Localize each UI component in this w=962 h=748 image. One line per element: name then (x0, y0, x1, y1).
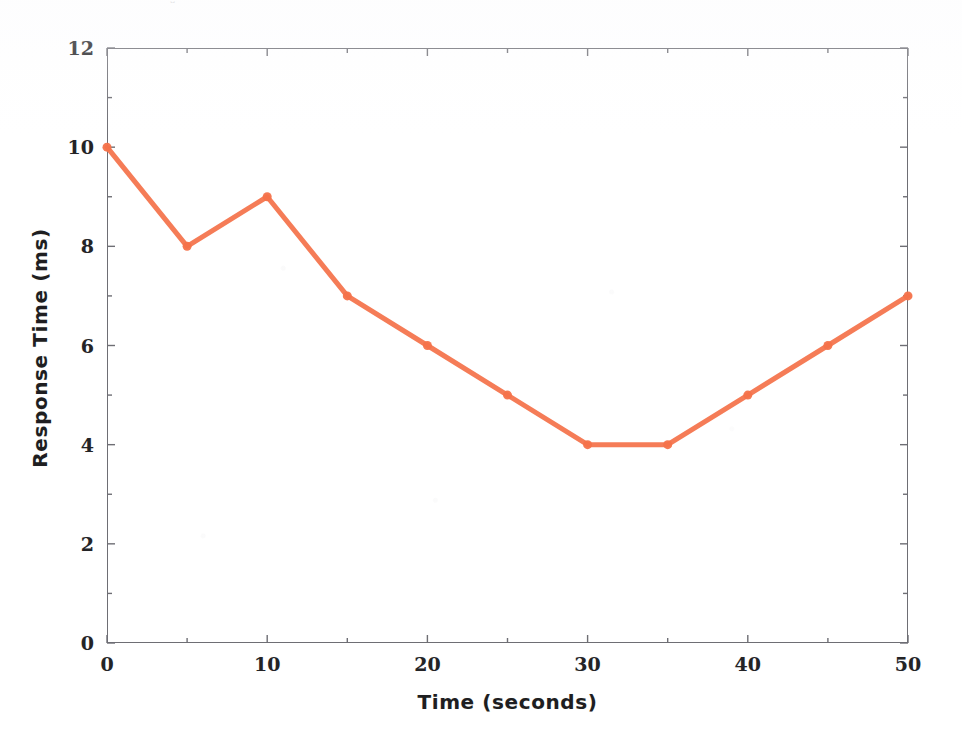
data-point (183, 242, 192, 251)
clipped-title-artifact: ⌄ (168, 0, 208, 3)
data-point (423, 341, 432, 350)
data-point (583, 440, 592, 449)
response-time-markers (103, 143, 913, 450)
plot-area (107, 48, 908, 643)
y-axis-tick-labels: 024681012 (52, 48, 94, 643)
x-tick-label: 30 (574, 655, 600, 674)
data-point (103, 143, 112, 152)
data-point (663, 440, 672, 449)
x-tick-label: 50 (895, 655, 921, 674)
y-tick-label: 2 (81, 534, 94, 553)
x-tick-label: 10 (254, 655, 280, 674)
y-tick-label: 0 (81, 634, 94, 653)
major-tick-marks (107, 48, 908, 643)
data-point (503, 391, 512, 400)
y-axis-title: Response Time (ms) (28, 48, 52, 648)
response-time-line (107, 147, 908, 445)
y-tick-label: 4 (81, 435, 94, 454)
x-tick-label: 40 (735, 655, 761, 674)
x-tick-label: 0 (100, 655, 113, 674)
y-tick-label: 12 (68, 39, 94, 58)
data-point (904, 291, 913, 300)
line-series-canvas (107, 48, 908, 643)
y-tick-label: 10 (68, 138, 94, 157)
x-axis-tick-labels: 01020304050 (107, 655, 908, 683)
x-axis-title: Time (seconds) (107, 690, 908, 714)
y-tick-label: 8 (81, 237, 94, 256)
data-point (823, 341, 832, 350)
chart-figure: ⌄ 024681012 01020304050 Time (seconds) R… (0, 0, 962, 748)
data-point (343, 291, 352, 300)
data-point (743, 391, 752, 400)
x-tick-label: 20 (414, 655, 440, 674)
data-point (263, 192, 272, 201)
minor-tick-marks (107, 48, 908, 643)
y-tick-label: 6 (81, 336, 94, 355)
